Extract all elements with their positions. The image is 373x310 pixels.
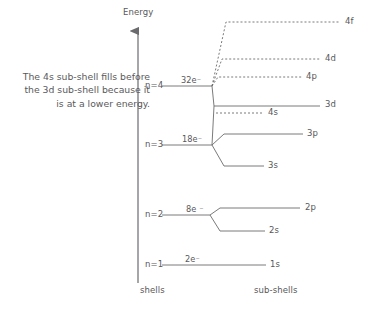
subshell-label-4s: 4s	[268, 108, 278, 117]
subshell-label-4p: 4p	[306, 72, 317, 81]
shell-label-n1: n=1	[145, 260, 163, 269]
shell-label-n3: n=3	[145, 140, 163, 149]
subshell-label-4d: 4d	[325, 54, 336, 63]
branch-n2-to-2s	[210, 215, 265, 231]
electron-count-n4: 32e⁻	[181, 76, 201, 85]
column-header-shells: shells	[140, 286, 165, 295]
branch-n2-to-2p	[210, 208, 300, 215]
subshell-label-3d: 3d	[325, 100, 336, 109]
subshell-label-3p: 3p	[307, 129, 318, 138]
shell-label-n4: n=4	[145, 81, 163, 90]
electron-count-n3: 18e⁻	[182, 135, 202, 144]
electron-count-n1: 2e⁻	[185, 255, 200, 264]
branch-n4-to-4d	[212, 59, 320, 86]
branch-n4-to-4f	[212, 22, 340, 86]
subshell-label-2p: 2p	[305, 203, 316, 212]
energy-axis-label: Energy	[123, 8, 153, 17]
subshell-label-1s: 1s	[270, 260, 280, 269]
column-header-subshells: sub-shells	[254, 286, 297, 295]
subshell-label-3s: 3s	[268, 161, 278, 170]
caption-text: The 4s sub-shell fills before the 3d sub…	[18, 70, 150, 110]
shell-label-n2: n=2	[145, 210, 163, 219]
branch-n3-to-3p	[212, 134, 303, 145]
subshell-label-2s: 2s	[269, 226, 279, 235]
branch-n4-to-4p	[212, 77, 302, 86]
branch-n4-to-4s-junction	[212, 86, 214, 106]
branch-n3-to-3d	[212, 106, 320, 145]
subshell-label-4f: 4f	[345, 17, 354, 26]
energy-level-diagram: Energy The 4s sub-shell fills before the…	[0, 0, 373, 310]
branch-n3-to-3s	[212, 145, 264, 166]
electron-count-n2: 8e ⁻	[186, 205, 204, 214]
